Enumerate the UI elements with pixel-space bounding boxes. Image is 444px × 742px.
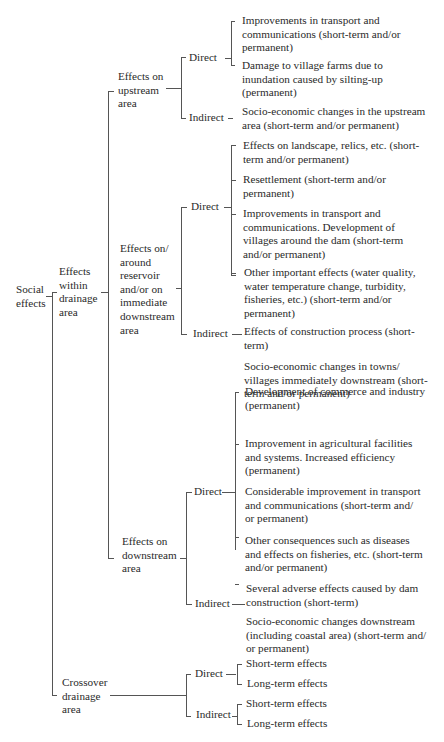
leaf-cross-direct-1: Short-term effects (246, 657, 327, 671)
connector-cross-direct (226, 674, 236, 675)
bracket-down-direct (235, 392, 236, 550)
bracket-level2 (108, 91, 109, 559)
node-social-effects: Social effects (16, 283, 46, 310)
connector-crossover (110, 695, 186, 696)
leaf-down-direct-2: Improvement in agricultural facilities a… (245, 437, 412, 478)
connector-down-direct (222, 492, 235, 493)
tick-leaf (235, 392, 239, 393)
tick-crossover (52, 695, 57, 696)
tick-leaf (235, 537, 239, 538)
node-effects-on-upstream-area: Effects on upstream area (118, 70, 163, 111)
node-up-direct: Direct (189, 51, 217, 65)
leaf-res-direct-3: Improvements in transport and communicat… (243, 207, 403, 261)
tick-up-indirect (181, 118, 186, 119)
connector-res-direct (224, 207, 231, 208)
bracket-crossover (186, 674, 187, 717)
connector-down-indirect (232, 604, 245, 605)
leaf-cross-indirect-1: Short-term effects (246, 697, 327, 711)
bracket-reservoir (181, 207, 182, 335)
leaf-res-direct-2: Resettlement (short-term and/or permanen… (243, 173, 386, 200)
tick-res-direct (181, 207, 187, 208)
leaf-res-direct-1: Effects on landscape, relics, etc. (shor… (243, 139, 419, 166)
bracket-cross-direct (237, 664, 238, 684)
node-crossover-drainage-area: Crossover drainage area (62, 676, 107, 717)
node-effects-around-reservoir: Effects on/ around reservoir and/or on i… (120, 242, 175, 337)
tick-leaf (231, 273, 236, 274)
leaf-cross-indirect-2: Long-term effects (247, 717, 327, 731)
node-cross-direct: Direct (195, 667, 223, 681)
node-effects-on-downstream-area: Effects on downstream area (122, 535, 177, 576)
tick-leaf (231, 275, 236, 276)
tick-leaf (237, 664, 242, 665)
tick-up-direct (181, 57, 186, 58)
tick-leaf (231, 145, 236, 146)
node-res-direct: Direct (191, 200, 219, 214)
tick-within (52, 292, 57, 293)
node-up-indirect: Indirect (189, 111, 224, 125)
bracket-upstream (181, 57, 182, 119)
leaf-down-indirect-1: Socio-economic changes downstream (inclu… (246, 615, 426, 656)
node-down-direct: Direct (194, 485, 222, 499)
tick-downstream (108, 558, 114, 559)
node-res-indirect: Indirect (193, 327, 228, 341)
connector-upstream (166, 88, 181, 89)
bracket-cross-indirect (237, 704, 238, 724)
leaf-down-direct-5: Several adverse effects caused by dam co… (246, 582, 418, 609)
tick-cross-direct (186, 674, 191, 675)
leaf-res-direct-5: Effects of construction process (short- … (244, 325, 415, 352)
tick-leaf (235, 444, 239, 445)
tick-leaf (237, 684, 242, 685)
leaf-down-direct-3: Considerable improvement in transport an… (245, 485, 421, 526)
connector-up-indirect (228, 118, 233, 119)
tick-leaf (231, 214, 236, 215)
connector-within (101, 292, 108, 293)
tick-leaf (235, 584, 239, 585)
leaf-up-indirect-1: Socio-economic changes in the upstream a… (242, 105, 425, 132)
tick-leaf (231, 180, 236, 181)
bracket-res-direct (231, 145, 232, 275)
tick-down-indirect (186, 604, 192, 605)
tick-res-indirect (181, 334, 187, 335)
leaf-up-direct-1: Improvements in transport and communicat… (242, 14, 400, 55)
node-cross-indirect: Indirect (196, 708, 231, 722)
node-effects-within-drainage-area: Effects within drainage area (59, 265, 98, 319)
leaf-res-direct-4: Other important effects (water quality, … (244, 266, 415, 320)
leaf-up-direct-2: Damage to village farms due to inundatio… (242, 59, 383, 100)
tick-down-direct (186, 492, 192, 493)
leaf-down-direct-4: Other consequences such as diseases and … (245, 534, 423, 575)
tick-leaf (231, 65, 235, 66)
leaf-down-direct-1: Development of commerce and industry (pe… (245, 385, 425, 412)
bracket-up-direct (231, 21, 232, 65)
connector-res-indirect (232, 334, 242, 335)
leaf-cross-direct-2: Long-term effects (247, 677, 327, 691)
node-down-indirect: Indirect (195, 597, 230, 611)
tick-leaf (237, 704, 242, 705)
bracket-downstream (186, 492, 187, 605)
bracket-level1 (52, 292, 53, 696)
tick-leaf (237, 724, 242, 725)
tick-upstream (108, 91, 114, 92)
tick-leaf (231, 21, 235, 22)
tick-cross-indirect (186, 716, 191, 717)
